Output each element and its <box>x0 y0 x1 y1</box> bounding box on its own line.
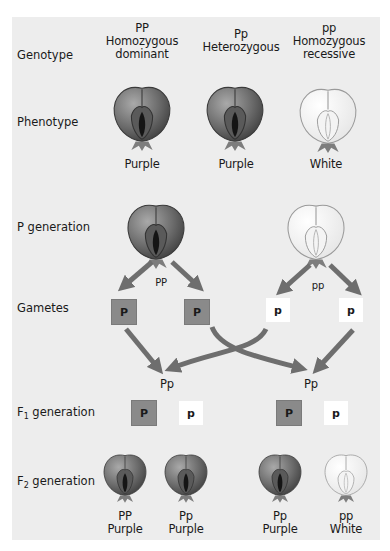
flower-purple-icon <box>162 452 210 504</box>
f2-phenotype: Purple <box>107 523 142 536</box>
f1-gamete-recessive: p <box>179 401 203 425</box>
flower-purple-icon <box>101 452 149 504</box>
f2-offspring: PP Purple <box>107 510 142 536</box>
flower-white-icon <box>322 452 370 504</box>
f1-gamete-recessive: p <box>324 401 348 425</box>
f2-offspring: Pp Purple <box>168 510 203 536</box>
flower-purple-icon <box>256 452 304 504</box>
gamete-recessive: p <box>339 298 363 322</box>
f2-phenotype: Purple <box>262 523 297 536</box>
f2-offspring: Pp Purple <box>262 510 297 536</box>
f2-phenotype: Purple <box>168 523 203 536</box>
f1-offspring-genotype: Pp <box>160 378 174 391</box>
f2-phenotype: White <box>330 523 362 536</box>
f2-offspring: pp White <box>330 510 362 536</box>
gamete-dominant: P <box>184 299 210 325</box>
gamete-dominant: P <box>111 299 137 325</box>
f1-offspring-genotype: Pp <box>304 378 318 391</box>
gamete-recessive: p <box>266 298 290 322</box>
f1-gamete-dominant: P <box>131 400 157 426</box>
f1-gamete-dominant: P <box>276 400 302 426</box>
